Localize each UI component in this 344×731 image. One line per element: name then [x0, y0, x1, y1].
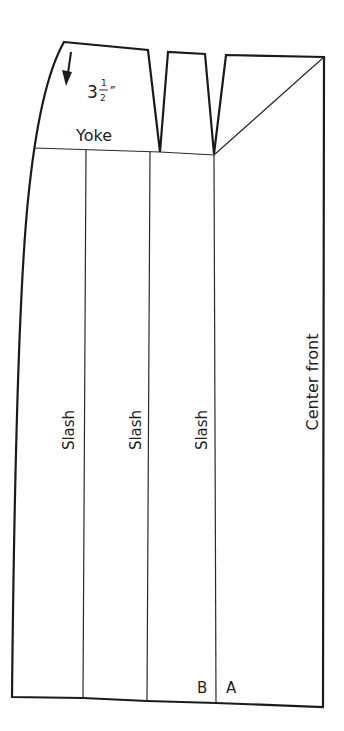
slash-label-3: Slash: [193, 410, 211, 450]
center-front-label: Center front: [303, 334, 322, 431]
yoke-seam-line: [34, 148, 214, 155]
point-b-label: B: [197, 679, 207, 697]
pattern-diagram: 3 1 2 ″ Yoke Slash Slash Slash Center fr…: [0, 0, 344, 731]
measurement-denominator: 2: [100, 93, 106, 103]
center-front-diagonal: [214, 57, 324, 155]
yoke-label: Yoke: [75, 126, 112, 145]
slash-label-2: Slash: [127, 410, 145, 450]
grainline-arrow-icon: [62, 52, 72, 86]
measurement-whole: 3: [87, 82, 98, 102]
measurement-numerator: 1: [101, 78, 107, 88]
slash-line-3: [214, 155, 216, 703]
slash-label-1: Slash: [60, 410, 78, 450]
yoke-measurement-label: 3 1 2 ″: [87, 78, 116, 103]
point-a-label: A: [226, 679, 237, 697]
measurement-unit: ″: [110, 84, 116, 102]
pattern-outline: [12, 42, 324, 707]
slash-line-2: [147, 152, 150, 701]
slash-line-1: [83, 150, 86, 698]
